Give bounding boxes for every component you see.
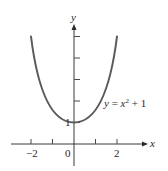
x-tick-label-neg2: −2	[26, 147, 38, 159]
eq-rest: + 1	[129, 97, 146, 109]
y-axis-label: y	[70, 11, 76, 23]
equation-label: y = x2 + 1	[103, 97, 146, 109]
y-axis-arrow-icon	[72, 24, 77, 30]
eq-equals: =	[109, 97, 121, 109]
y-tick-label-1: 1	[65, 116, 71, 128]
x-tick-label-0: 0	[65, 147, 71, 159]
y-ticks	[74, 37, 80, 123]
x-axis-label: x	[149, 137, 155, 149]
parabola-plot: y x −2 0 2 1 y = x2 + 1	[0, 0, 168, 171]
x-axis-arrow-icon	[142, 142, 148, 147]
x-tick-label-2: 2	[114, 147, 120, 159]
